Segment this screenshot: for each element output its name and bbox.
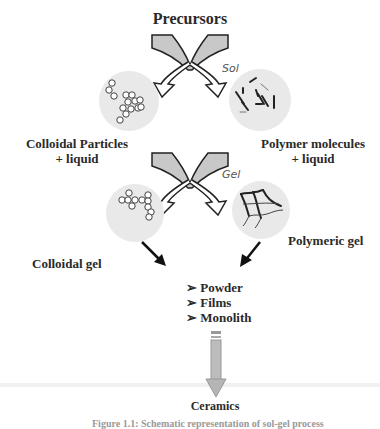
bullet-arrow-icon: ➢ — [186, 310, 197, 325]
products-list: ➢ Powder ➢ Films ➢ Monolith — [186, 280, 252, 325]
split-arrows-icon — [150, 30, 230, 100]
precursors-title: Precursors — [140, 10, 240, 28]
arrow-down-left-icon — [236, 240, 266, 270]
ceramics-label: Ceramics — [160, 399, 270, 414]
colloidal-particles-circle-icon — [98, 70, 160, 132]
bullet-arrow-icon: ➢ — [186, 280, 197, 295]
product-item-films: ➢ Films — [186, 295, 252, 310]
polymer-molecules-label: Polymer molecules + liquid — [252, 136, 374, 166]
bullet-arrow-icon: ➢ — [186, 295, 197, 310]
product-item-powder: ➢ Powder — [186, 280, 252, 295]
polymeric-gel-label: Polymeric gel — [288, 233, 363, 249]
polymer-molecules-label-line1: Polymer molecules — [252, 136, 374, 151]
product-item-monolith: ➢ Monolith — [186, 310, 252, 325]
product-powder-label: Powder — [200, 280, 243, 295]
down-arrow-icon — [206, 331, 226, 397]
polymer-molecules-circle-icon — [228, 68, 292, 132]
colloidal-particles-label: Colloidal Particles + liquid — [12, 136, 142, 166]
polymer-molecules-label-line2: + liquid — [252, 151, 374, 166]
polymeric-gel-circle-icon — [231, 180, 291, 240]
product-films-label: Films — [200, 295, 231, 310]
colloidal-particles-label-line2: + liquid — [12, 151, 142, 166]
colloidal-particles-label-line1: Colloidal Particles — [12, 136, 142, 151]
arrow-down-right-icon — [140, 240, 170, 270]
colloidal-gel-label: Colloidal gel — [32, 256, 102, 272]
colloidal-gel-circle-icon — [105, 183, 165, 243]
background-band — [0, 383, 380, 387]
figure-caption: Figure 1.1: Schematic representation of … — [92, 418, 324, 429]
product-monolith-label: Monolith — [200, 310, 251, 325]
